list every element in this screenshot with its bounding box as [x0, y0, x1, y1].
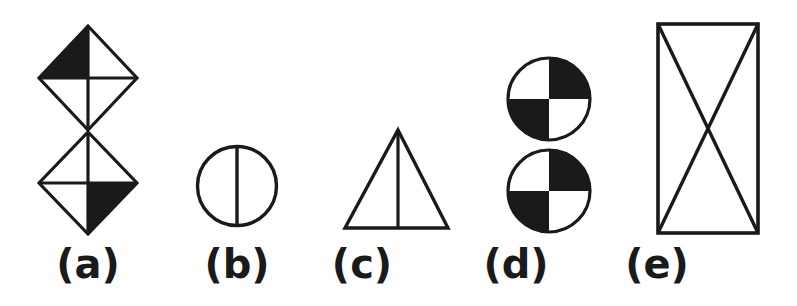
figure-a-caption: (a) [56, 241, 120, 287]
figure-b-caption: (b) [204, 241, 269, 287]
figure-e-caption: (e) [625, 241, 689, 287]
figure-c-caption: (c) [332, 241, 392, 287]
figure-d-caption: (d) [483, 241, 548, 287]
figure-panel: (a) (b) (c) [0, 0, 797, 306]
figure-canvas: (a) (b) (c) [0, 0, 797, 306]
